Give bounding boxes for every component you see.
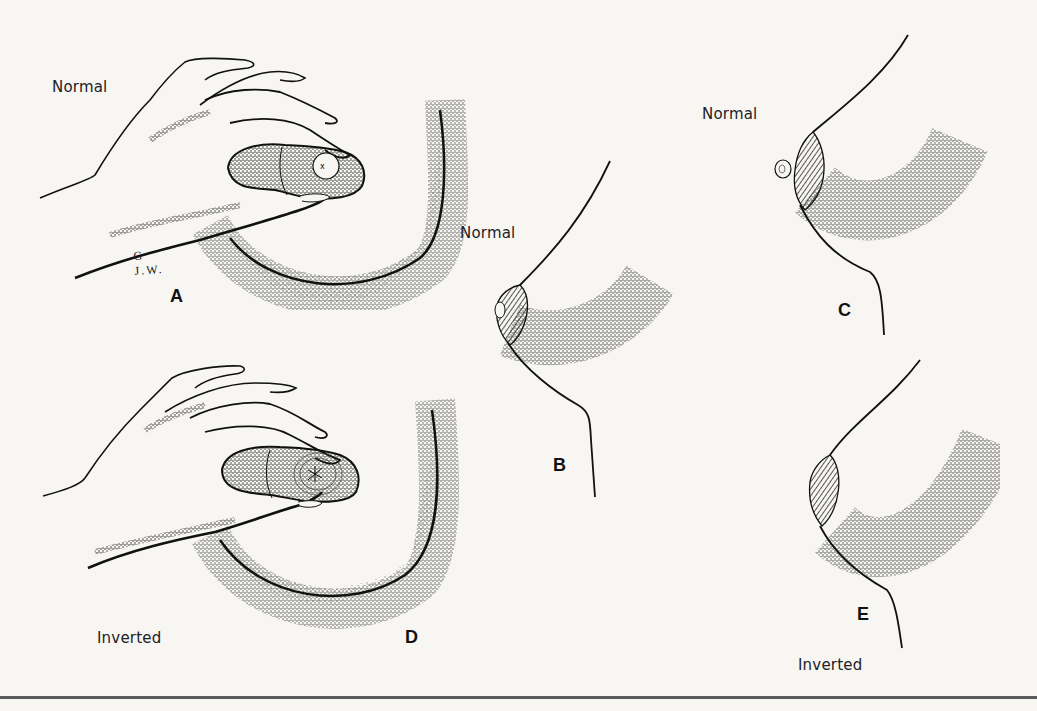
panel-a-caption: Normal — [52, 78, 107, 96]
panel-e-letter: E — [857, 604, 869, 625]
illustration-artwork: x — [0, 0, 1037, 711]
artist-signature: G J.W. — [133, 247, 164, 279]
panel-a-letter: A — [170, 286, 183, 307]
panel-d-letter: D — [405, 627, 418, 648]
medical-illustration-figure: x — [0, 0, 1037, 711]
panel-d-caption: Inverted — [97, 629, 161, 647]
panel-b-letter: B — [553, 455, 566, 476]
bottom-divider-rule — [0, 696, 1037, 699]
panel-c-drawing — [775, 35, 990, 335]
panel-b-drawing — [495, 161, 675, 497]
panel-d-drawing — [43, 366, 470, 630]
panel-e-drawing — [810, 360, 1000, 648]
panel-b-caption: Normal — [460, 224, 515, 242]
panel-a-drawing: x — [40, 58, 470, 310]
svg-text:x: x — [320, 162, 325, 171]
panel-c-letter: C — [838, 300, 851, 321]
panel-c-caption: Normal — [702, 105, 757, 123]
panel-e-caption: Inverted — [798, 656, 862, 674]
